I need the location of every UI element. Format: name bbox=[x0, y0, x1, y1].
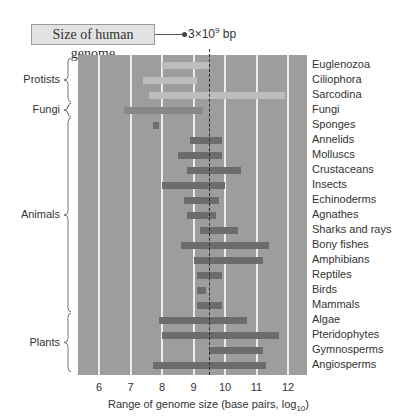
row-label: Insects bbox=[312, 178, 347, 190]
gridline-7 bbox=[130, 55, 132, 375]
row-label: Ciliophora bbox=[312, 73, 362, 85]
callout-leader-line bbox=[155, 34, 184, 35]
brace-icon bbox=[63, 118, 71, 312]
row-label: Molluscs bbox=[312, 148, 355, 160]
range-bar-birds bbox=[197, 287, 206, 294]
range-bar-gymnosperms bbox=[209, 347, 263, 354]
row-label: Fungi bbox=[312, 103, 340, 115]
gridline-8 bbox=[161, 55, 163, 375]
row-label: Mammals bbox=[312, 298, 360, 310]
range-bar-sharks-and-rays bbox=[200, 227, 238, 234]
row-label: Angiosperms bbox=[312, 358, 376, 370]
gridline-11 bbox=[256, 55, 258, 375]
group-label-protists: Protists bbox=[0, 73, 60, 85]
range-bar-annelids bbox=[190, 137, 222, 144]
x-tick-label: 12 bbox=[278, 381, 298, 393]
gridline-10 bbox=[224, 55, 226, 375]
range-bar-insects bbox=[162, 182, 225, 189]
range-bar-ciliophora bbox=[143, 77, 197, 84]
range-bar-agnathes bbox=[187, 212, 215, 219]
gridline-12 bbox=[287, 55, 289, 375]
row-label: Reptiles bbox=[312, 268, 352, 280]
human-genome-marker-line bbox=[209, 49, 210, 375]
callout-value: 3×109 bp bbox=[188, 26, 236, 41]
row-label: Sponges bbox=[312, 118, 355, 130]
row-label: Algae bbox=[312, 313, 340, 325]
range-bar-amphibians bbox=[194, 257, 263, 264]
range-bar-echinoderms bbox=[184, 197, 219, 204]
row-label: Annelids bbox=[312, 133, 354, 145]
range-bar-euglenozoa bbox=[162, 62, 209, 69]
x-tick-label: 9 bbox=[184, 381, 204, 393]
brace-icon bbox=[63, 58, 71, 102]
x-axis-label: Range of genome size (base pairs, log10) bbox=[0, 398, 407, 413]
x-tick-label: 11 bbox=[247, 381, 267, 393]
row-label: Echinoderms bbox=[312, 193, 376, 205]
range-bar-bony-fishes bbox=[181, 242, 269, 249]
row-label: Euglenozoa bbox=[312, 58, 370, 70]
row-label: Sharks and rays bbox=[312, 223, 391, 235]
row-label: Gymnosperms bbox=[312, 343, 384, 355]
group-label-plants: Plants bbox=[0, 336, 60, 348]
row-label: Birds bbox=[312, 283, 337, 295]
callout-dot-icon bbox=[182, 32, 187, 37]
range-bar-pteridophytes bbox=[162, 332, 279, 339]
range-bar-fungi bbox=[124, 107, 203, 114]
gridline-6 bbox=[98, 55, 100, 375]
x-tick-label: 10 bbox=[215, 381, 235, 393]
row-label: Sarcodina bbox=[312, 88, 362, 100]
range-bar-sarcodina bbox=[149, 92, 284, 99]
group-label-fungi: Fungi bbox=[0, 103, 60, 115]
range-bar-algae bbox=[159, 317, 247, 324]
brace-icon bbox=[63, 103, 71, 117]
row-label: Agnathes bbox=[312, 208, 358, 220]
range-bar-molluscs bbox=[178, 152, 222, 159]
range-bar-crustaceans bbox=[187, 167, 241, 174]
callout-label: Size of human genome bbox=[31, 24, 155, 45]
row-label: Crustaceans bbox=[312, 163, 374, 175]
range-bar-sponges bbox=[153, 122, 159, 129]
x-tick-label: 7 bbox=[121, 381, 141, 393]
brace-icon bbox=[63, 313, 71, 372]
row-label: Bony fishes bbox=[312, 238, 369, 250]
x-tick-label: 6 bbox=[89, 381, 109, 393]
group-label-animals: Animals bbox=[0, 208, 60, 220]
plot-area bbox=[78, 55, 307, 375]
row-label: Pteridophytes bbox=[312, 328, 379, 340]
row-label: Amphibians bbox=[312, 253, 369, 265]
x-tick-label: 8 bbox=[152, 381, 172, 393]
